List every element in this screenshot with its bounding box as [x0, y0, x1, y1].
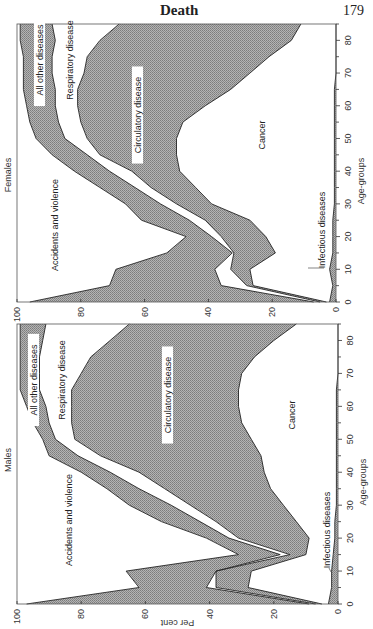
panel-title: Females	[3, 157, 13, 192]
percent-tick-label: 20	[269, 609, 279, 619]
band-label-respiratory-disease: Respiratory disease	[65, 20, 75, 100]
percent-tick-label: 60	[140, 609, 150, 619]
age-tick-label: 80	[345, 335, 355, 345]
percent-tick-label: 80	[76, 307, 86, 317]
band-label-cancer: Cancer	[287, 400, 297, 429]
females-panel: 02040608010001020304050607080Age-groupsF…	[3, 14, 366, 322]
age-axis-label: Age-groups	[358, 458, 368, 505]
age-tick-label: 60	[343, 101, 353, 111]
percent-tick-label: 0	[333, 609, 343, 614]
band-label-accidents-and-violence: Accidents and violence	[50, 179, 60, 271]
percent-tick-label: 100	[12, 307, 22, 322]
age-tick-label: 40	[345, 467, 355, 477]
percent-tick-label: 40	[203, 307, 213, 317]
age-tick-label: 60	[345, 401, 355, 411]
band-label-circulatory-disease: Circulatory disease	[163, 357, 173, 434]
age-tick-label: 40	[343, 166, 353, 176]
age-tick-label: 10	[343, 264, 353, 274]
age-tick-label: 10	[345, 566, 355, 576]
band-label-infectious-diseases: Infectious diseases	[322, 491, 332, 568]
figure-death-causes: 02040608010001020304050607080Age-groupsF…	[0, 0, 373, 629]
age-tick-label: 0	[345, 601, 355, 606]
males-panel: 02040608010001020304050607080Age-groupsP…	[3, 324, 368, 628]
panel-title: Males	[3, 448, 13, 473]
band-label-all-other-diseases: All other diseases	[35, 24, 45, 96]
percent-tick-label: 80	[76, 609, 86, 619]
percent-tick-label: 20	[267, 307, 277, 317]
age-axis-label: Age-groups	[356, 157, 366, 204]
band-label-circulatory-disease: Circulatory disease	[133, 77, 143, 154]
age-tick-label: 20	[345, 533, 355, 543]
percent-tick-label: 0	[331, 307, 341, 312]
age-tick-label: 20	[343, 232, 353, 242]
age-tick-label: 50	[345, 434, 355, 444]
age-tick-label: 30	[345, 500, 355, 510]
band-label-infectious-diseases: Infectious diseases	[317, 191, 327, 268]
age-tick-label: 70	[345, 368, 355, 378]
band-label-accidents-and-violence: Accidents and violence	[64, 474, 74, 566]
percent-tick-label: 40	[205, 609, 215, 619]
percent-tick-label: 100	[12, 609, 22, 624]
age-tick-label: 80	[343, 35, 353, 45]
percent-axis-label: Per cent	[160, 618, 194, 628]
band-label-respiratory-disease: Respiratory disease	[57, 340, 67, 420]
age-tick-label: 50	[343, 133, 353, 143]
percent-tick-label: 60	[140, 307, 150, 317]
age-tick-label: 30	[343, 199, 353, 209]
age-tick-label: 70	[343, 68, 353, 78]
age-tick-label: 0	[343, 299, 353, 304]
band-label-cancer: Cancer	[257, 120, 267, 149]
band-label-all-other-diseases: All other diseases	[29, 344, 39, 416]
